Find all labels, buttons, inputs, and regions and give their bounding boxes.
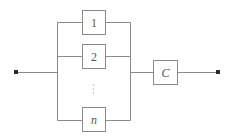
block-1-label: 1 [91,16,97,30]
block-n: n [83,108,106,132]
block-1: 1 [83,11,106,35]
reliability-diagram: 1 2 n C [0,0,231,139]
block-n-label: n [91,113,97,127]
block-c-label: C [161,66,170,80]
vertical-ellipsis [93,84,94,93]
block-2: 2 [83,45,106,69]
input-terminal [14,70,18,74]
block-2-label: 2 [91,50,97,64]
output-terminal [216,70,220,74]
block-c: C [154,61,178,85]
